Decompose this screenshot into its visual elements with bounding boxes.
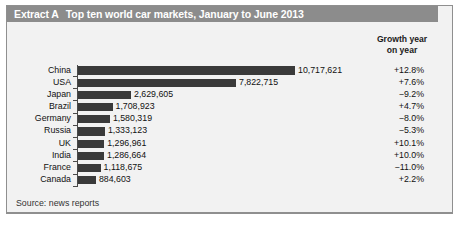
bar xyxy=(78,152,104,160)
chart-row: Germany 1,580,319 −8.0% xyxy=(7,114,454,126)
chart-row: India 1,286,664 +10.0% xyxy=(7,150,454,162)
bar-value-label: 2,629,605 xyxy=(134,89,173,100)
bar-value-label: 1,286,664 xyxy=(107,150,146,161)
chart-row: Canada 884,603 +2.2% xyxy=(7,175,454,187)
growth-value: −8.0% xyxy=(362,113,424,124)
growth-header-line-2: on year xyxy=(362,45,442,56)
bar xyxy=(78,164,101,172)
category-label: Japan xyxy=(7,89,71,100)
category-label: Russia xyxy=(7,125,71,136)
category-label: UK xyxy=(7,138,71,149)
growth-value: −9.2% xyxy=(362,89,424,100)
bar-value-label: 1,708,923 xyxy=(116,101,155,112)
category-label: India xyxy=(7,150,71,161)
chart-row: France 1,118,675 −11.0% xyxy=(7,163,454,175)
bar-value-label: 884,603 xyxy=(99,174,131,185)
bar xyxy=(78,91,131,99)
extract-title: Top ten world car markets, January to Ju… xyxy=(66,8,304,20)
bar-value-label: 1,580,319 xyxy=(113,113,152,124)
growth-value: +12.8% xyxy=(362,65,424,76)
category-label: Brazil xyxy=(7,101,71,112)
growth-value: −11.0% xyxy=(362,162,424,173)
extract-header-band: Extract A Top ten world car markets, Jan… xyxy=(7,6,438,22)
growth-value: +7.6% xyxy=(362,77,424,88)
bar-chart-plot: China 10,717,621 +12.8% USA 7,822,715 +7… xyxy=(7,65,454,187)
bar xyxy=(78,103,113,111)
growth-header-line-1: Growth year xyxy=(362,34,442,45)
growth-value: +10.0% xyxy=(362,150,424,161)
bar xyxy=(78,140,104,148)
growth-value: +2.2% xyxy=(362,174,424,185)
growth-value: +10.1% xyxy=(362,138,424,149)
chart-area: Growth yearon year China 10,717,621 +12.… xyxy=(7,22,452,212)
growth-value: −5.3% xyxy=(362,125,424,136)
growth-column-header: Growth yearon year xyxy=(362,34,442,55)
chart-row: UK 1,296,961 +10.1% xyxy=(7,138,454,150)
bar-value-label: 10,717,621 xyxy=(298,65,342,76)
bar-value-label: 1,118,675 xyxy=(104,162,142,173)
chart-row: USA 7,822,715 +7.6% xyxy=(7,77,454,89)
bar xyxy=(78,115,110,123)
bar xyxy=(78,127,105,135)
chart-row: Japan 2,629,605 −9.2% xyxy=(7,89,454,101)
bar xyxy=(78,176,96,184)
bar-value-label: 1,333,123 xyxy=(108,125,147,136)
category-label: Germany xyxy=(7,113,71,124)
growth-value: +4.7% xyxy=(362,101,424,112)
bar-value-label: 7,822,715 xyxy=(239,77,278,88)
category-label: USA xyxy=(7,77,71,88)
category-label: France xyxy=(7,162,71,173)
axis-tick xyxy=(73,186,77,187)
bar xyxy=(78,66,295,74)
extract-panel: Extract A Top ten world car markets, Jan… xyxy=(6,5,453,214)
category-label: China xyxy=(7,65,71,76)
chart-row: Russia 1,333,123 −5.3% xyxy=(7,126,454,138)
bar xyxy=(78,79,236,87)
source-note: Source: news reports xyxy=(16,198,99,208)
chart-row: China 10,717,621 +12.8% xyxy=(7,65,454,77)
chart-row: Brazil 1,708,923 +4.7% xyxy=(7,102,454,114)
bar-value-label: 1,296,961 xyxy=(107,138,146,149)
category-label: Canada xyxy=(7,174,71,185)
extract-label: Extract A xyxy=(14,8,59,20)
